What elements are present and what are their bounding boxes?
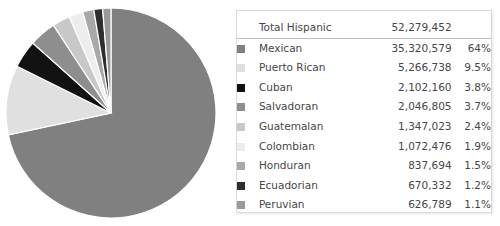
legend-value: 2,102,160	[373, 78, 452, 98]
legend-value: 837,694	[373, 156, 452, 176]
legend-row[interactable]: Peruvian626,7891.1%	[237, 195, 491, 215]
legend-percent: 64%	[452, 38, 491, 58]
legend-row[interactable]: Puerto Rican5,266,7389.5%	[237, 58, 491, 78]
total-percent	[452, 18, 491, 38]
legend-percent: 9.5%	[452, 58, 491, 78]
legend-label: Ecuadorian	[259, 176, 373, 196]
legend-percent: 1.9%	[452, 137, 491, 157]
total-row: Total Hispanic 52,279,452	[237, 18, 491, 38]
legend-value: 5,266,738	[373, 58, 452, 78]
legend-table: Total Hispanic 52,279,452 Mexican35,320,…	[237, 18, 491, 215]
legend-percent: 3.8%	[452, 78, 491, 98]
legend-row[interactable]: Colombian1,072,4761.9%	[237, 137, 491, 157]
legend-value: 35,320,579	[373, 38, 452, 58]
total-label: Total Hispanic	[259, 18, 373, 38]
legend-label: Puerto Rican	[259, 58, 373, 78]
legend-swatch-cell	[237, 137, 259, 157]
legend-swatch-cell	[237, 176, 259, 196]
color-swatch-icon	[237, 45, 245, 53]
legend-row[interactable]: Mexican35,320,57964%	[237, 38, 491, 58]
legend-swatch-cell	[237, 117, 259, 137]
color-swatch-icon	[237, 123, 245, 131]
legend-swatch-cell	[237, 195, 259, 215]
legend-percent: 3.7%	[452, 97, 491, 117]
color-swatch-icon	[237, 64, 245, 72]
legend-value: 626,789	[373, 195, 452, 215]
total-value: 52,279,452	[373, 18, 452, 38]
legend-label: Guatemalan	[259, 117, 373, 137]
total-swatch-cell	[237, 18, 259, 38]
legend-label: Colombian	[259, 137, 373, 157]
legend-panel: Total Hispanic 52,279,452 Mexican35,320,…	[236, 10, 492, 213]
legend-value: 670,332	[373, 176, 452, 196]
legend-value: 1,347,023	[373, 117, 452, 137]
legend-percent: 2.4%	[452, 117, 491, 137]
legend-swatch-cell	[237, 156, 259, 176]
color-swatch-icon	[237, 201, 245, 209]
color-swatch-icon	[237, 103, 245, 111]
legend-percent: 1.2%	[452, 176, 491, 196]
legend-row[interactable]: Guatemalan1,347,0232.4%	[237, 117, 491, 137]
legend-label: Peruvian	[259, 195, 373, 215]
legend-swatch-cell	[237, 78, 259, 98]
pie-chart-svg	[4, 6, 218, 220]
legend-row[interactable]: Cuban2,102,1603.8%	[237, 78, 491, 98]
color-swatch-icon	[237, 162, 245, 170]
legend-label: Salvadoran	[259, 97, 373, 117]
color-swatch-icon	[237, 84, 245, 92]
legend-row[interactable]: Honduran837,6941.5%	[237, 156, 491, 176]
legend-label: Mexican	[259, 38, 373, 58]
legend-value: 1,072,476	[373, 137, 452, 157]
pie-chart	[4, 6, 218, 220]
legend-label: Honduran	[259, 156, 373, 176]
legend-label: Cuban	[259, 78, 373, 98]
legend-value: 2,046,805	[373, 97, 452, 117]
legend-swatch-cell	[237, 97, 259, 117]
color-swatch-icon	[237, 182, 245, 190]
legend-percent: 1.1%	[452, 195, 491, 215]
legend-row[interactable]: Salvadoran2,046,8053.7%	[237, 97, 491, 117]
legend-percent: 1.5%	[452, 156, 491, 176]
legend-swatch-cell	[237, 58, 259, 78]
color-swatch-icon	[237, 143, 245, 151]
legend-row[interactable]: Ecuadorian670,3321.2%	[237, 176, 491, 196]
legend-swatch-cell	[237, 38, 259, 58]
